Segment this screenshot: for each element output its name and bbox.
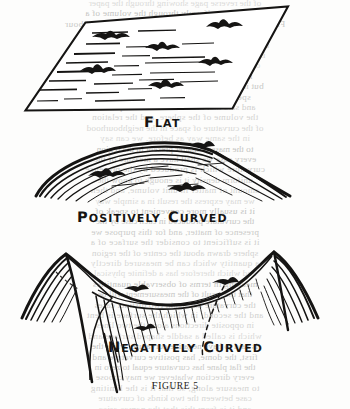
caption-flat: FLAT (144, 114, 181, 131)
caption-positive-lead-2: C (168, 210, 180, 226)
figure-label-word: IGURE (158, 381, 190, 391)
flat-surface-drawing (26, 7, 289, 111)
caption-positive-lead-1: P (77, 210, 89, 226)
caption-negative-lead-1: N (108, 340, 121, 356)
caption-positively-curved: POSITIVELYCURVED (77, 209, 228, 226)
dome-shading-strokes (40, 147, 286, 202)
caption-flat-rest: LAT (155, 117, 180, 130)
negatively-curved-surface-drawing (22, 252, 318, 392)
caption-negatively-curved: NEGATIVELYCURVED (108, 339, 263, 356)
caption-negative-lead-2: C (203, 340, 215, 356)
saddle-dip-rim (92, 256, 272, 309)
figure-label-number: 5 (193, 381, 198, 391)
positively-curved-surface-drawing (36, 141, 290, 202)
caption-flat-lead: F (144, 115, 155, 131)
caption-positive-rest-2: URVED (180, 212, 228, 225)
figure-page: of the reverse page showing through the … (0, 0, 350, 409)
figure-number-label: FIGURE 5 (0, 379, 350, 391)
caption-negative-rest-2: URVED (215, 342, 263, 355)
caption-negative-rest-1: EGATIVELY (121, 342, 196, 355)
caption-positive-rest-1: OSITIVELY (89, 212, 161, 225)
